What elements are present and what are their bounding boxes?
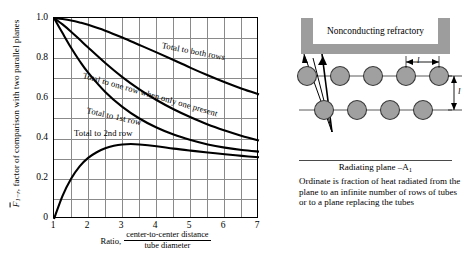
tube [298,67,317,86]
tube [381,101,400,120]
x-tick-label: 1 [43,220,63,230]
x-tick-label: 6 [213,220,233,230]
x-axis-title-fraction: center-to-center distance tube diameter [124,231,210,250]
nonconducting-refractory: Nonconducting refractory [301,18,450,54]
x-axis-title-prefix: Ratio, [100,236,121,246]
tube [430,67,449,86]
x-tick-label: 4 [145,220,165,230]
y-tick-label: 0.8 [0,52,48,62]
tube-diagram-svg [282,54,469,132]
curve-layer [54,18,259,219]
y-tick-label: 0 [0,212,48,222]
curve-total-to-both-rows [54,18,259,94]
x-tick-label: 5 [179,220,199,230]
x-tick-label: 3 [111,220,131,230]
curve-total-to-2nd-row [54,144,259,219]
tube [397,67,416,86]
tube [364,67,383,86]
vertical-pitch-label: l [458,86,461,96]
y-tick-label: 0.2 [0,172,48,182]
y-tick-labels: 1.0 0.8 0.6 0.4 0.2 0 [0,0,53,253]
tube [414,101,433,120]
tube [331,67,350,86]
plot-area: Total to both rows Total to one row when… [53,17,258,218]
refractory-label: Nonconducting refractory [301,26,450,36]
x-axis-fraction-denominator: tube diameter [124,242,210,251]
radiating-plane-label: Radiating plane –A1 [282,162,469,173]
diagram-panel: Nonconducting refractory [282,0,469,253]
x-axis-title: Ratio, center-to-center distance tube di… [53,231,258,250]
y-tick-label: 0.6 [0,92,48,102]
y-tick-label: 1.0 [0,12,48,22]
tube-bank-diagram: l l [282,54,469,132]
horizontal-pitch-label: l [417,55,420,65]
x-axis-fraction-numerator: center-to-center distance [124,231,210,240]
radiating-plane-text: Radiating plane –A [339,162,409,172]
y-tick-label: 0.4 [0,132,48,142]
refractory-roof [301,44,450,54]
chart-panel: F1−r, factor of comparison with two para… [0,0,282,253]
horizontal-pitch-dimension [406,56,439,68]
x-tick-label: 2 [77,220,97,230]
tube [348,101,367,120]
tube [315,101,334,120]
radiating-plane-subscript: 1 [409,166,412,173]
radiating-plane-line [299,160,452,161]
diagram-caption: Ordinate is fraction of heat radiated fr… [299,176,461,208]
x-tick-label: 7 [247,220,267,230]
radiation-rays [302,54,332,132]
curve-label-total-to-2nd-row: Total to 2nd row [74,128,133,138]
figure-root: F1−r, factor of comparison with two para… [0,0,469,253]
